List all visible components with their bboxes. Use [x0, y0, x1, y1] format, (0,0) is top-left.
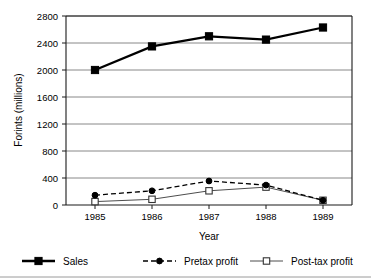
legend-marker-sales [35, 257, 42, 264]
y-tick-label-400: 400 [42, 173, 58, 184]
data-point-sales-1988 [262, 36, 269, 43]
x-tick-label-1986: 1986 [141, 211, 162, 222]
y-tick-label-1600: 1600 [37, 92, 58, 103]
legend-item-pretax-profit[interactable]: Pretax profit [143, 256, 238, 267]
line-chart: 2800 2400 2000 1600 1200 800 400 0 1985 … [0, 0, 371, 280]
y-tick-label-1200: 1200 [37, 119, 58, 130]
x-tick-labels: 1985 1986 1987 1988 1989 [84, 211, 333, 222]
y-tick-labels: 2800 2400 2000 1600 1200 800 400 0 [37, 11, 58, 211]
data-point-pretax-1988 [263, 182, 269, 188]
plot-frame [66, 16, 352, 205]
data-point-sales-1989 [319, 24, 326, 31]
y-axis-title: Forints (millions) [13, 73, 24, 146]
x-tick-label-1989: 1989 [312, 211, 333, 222]
chart-container: 2800 2400 2000 1600 1200 800 400 0 1985 … [0, 0, 371, 280]
data-point-pretax-1986 [149, 188, 155, 194]
series-post-tax-profit [92, 184, 326, 205]
y-tick-marks [62, 16, 66, 205]
x-tick-label-1987: 1987 [198, 211, 219, 222]
data-point-post-tax-1985 [92, 198, 98, 204]
data-point-sales-1987 [205, 33, 212, 40]
x-tick-marks [95, 205, 323, 209]
data-point-pretax-1987 [206, 178, 212, 184]
data-point-pretax-1985 [92, 192, 98, 198]
legend-label-post-tax-profit: Post-tax profit [291, 256, 353, 267]
y-tick-label-800: 800 [42, 146, 58, 157]
legend-item-post-tax-profit[interactable]: Post-tax profit [250, 256, 353, 267]
chart-legend: Sales Pretax profit Post-tax profit [22, 256, 353, 267]
y-tick-label-2800: 2800 [37, 11, 58, 22]
legend-label-pretax-profit: Pretax profit [184, 256, 238, 267]
legend-label-sales: Sales [63, 256, 88, 267]
x-axis-title: Year [199, 231, 220, 242]
x-tick-label-1985: 1985 [84, 211, 105, 222]
legend-marker-pretax [157, 258, 163, 264]
y-tick-label-2000: 2000 [37, 65, 58, 76]
data-point-post-tax-1986 [149, 196, 155, 202]
x-tick-label-1988: 1988 [255, 211, 276, 222]
data-point-post-tax-1987 [206, 188, 212, 194]
legend-item-sales[interactable]: Sales [22, 256, 88, 267]
data-point-sales-1985 [91, 66, 98, 73]
data-point-sales-1986 [148, 43, 155, 50]
legend-marker-post-tax [263, 258, 269, 264]
data-point-pretax-1989 [320, 197, 326, 203]
y-tick-label-0: 0 [53, 200, 58, 211]
series-sales [91, 24, 326, 74]
y-tick-label-2400: 2400 [37, 38, 58, 49]
